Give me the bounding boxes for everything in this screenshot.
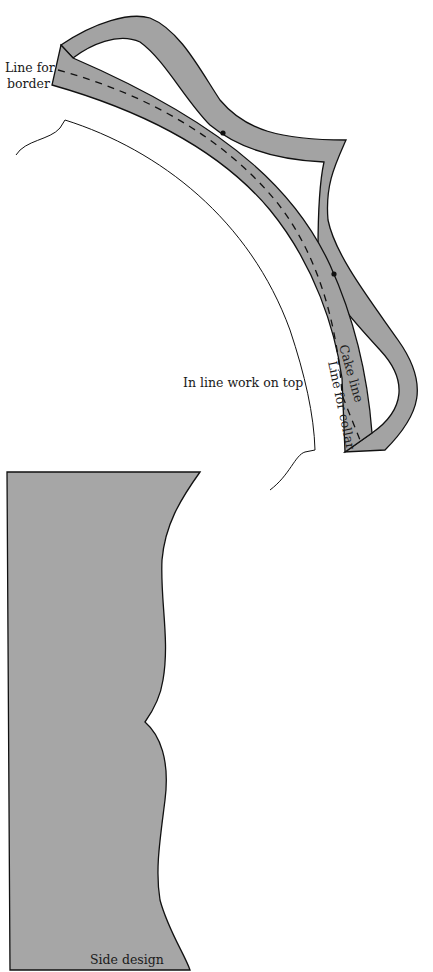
label-inline-work: In line work on top	[183, 375, 303, 390]
notch-dot	[331, 271, 336, 276]
label-line-for-border-2: border	[7, 76, 50, 91]
notch-dot	[220, 130, 225, 135]
label-line-for-border-1: Line for	[5, 60, 55, 75]
cake-pattern-diagram: Line for border In line work on top Cake…	[0, 0, 433, 972]
inline-work-outline	[16, 120, 315, 490]
label-side-design: Side design	[90, 952, 164, 967]
side-design-shape	[7, 472, 200, 970]
